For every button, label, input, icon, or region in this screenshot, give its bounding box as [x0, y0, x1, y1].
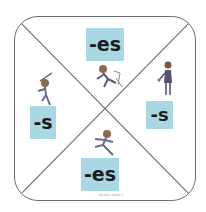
- suffix-label: -es: [89, 35, 121, 54]
- suffix-tile-left[interactable]: -s: [30, 106, 56, 139]
- suffix-tile-right[interactable]: -s: [146, 101, 173, 129]
- spinner-board: -es -s -s -es Spinner sheet 3: [14, 16, 196, 201]
- person-running-icon: [89, 129, 121, 157]
- suffix-label: -es: [84, 165, 116, 184]
- suffix-label: -s: [150, 106, 168, 124]
- person-tripping-icon: [94, 63, 124, 91]
- suffix-tile-bottom[interactable]: -es: [81, 158, 119, 191]
- caption: Spinner sheet 3: [99, 193, 123, 197]
- person-standing-icon: [157, 61, 177, 97]
- person-jumping-icon: [32, 71, 60, 107]
- suffix-tile-top[interactable]: -es: [86, 28, 124, 61]
- suffix-label: -s: [33, 113, 52, 132]
